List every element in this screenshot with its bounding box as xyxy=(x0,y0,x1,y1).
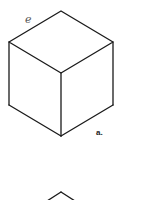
cube-b-partial xyxy=(47,192,75,200)
cube-a-bottom-left-edge xyxy=(9,105,61,136)
cube-diagram: e a. xyxy=(0,0,149,200)
cube-a-bottom-right-edge xyxy=(61,105,113,136)
cube-b-top-right-edge xyxy=(61,192,75,200)
cube-a-label: a. xyxy=(96,128,103,137)
edge-label-e: e xyxy=(25,13,32,26)
cube-b-top-left-edge xyxy=(47,192,61,200)
cube-a: e a. xyxy=(9,11,113,137)
